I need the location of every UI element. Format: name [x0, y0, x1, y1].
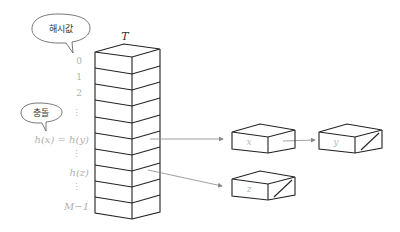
node-x	[232, 124, 295, 153]
hash-value-bubble: 해시값	[32, 14, 90, 53]
hash-table-stack	[95, 44, 160, 219]
hash-table-diagram: 해시값 충돌 T 0 1 2 ⋮ h(x) = h(y) ⋮ h(z) ⋮ M−…	[0, 0, 400, 232]
node-y	[319, 124, 382, 153]
node-y-label: y	[332, 137, 339, 147]
node-z	[232, 171, 295, 200]
index-0: 0	[76, 56, 82, 66]
index-m-minus-1: M−1	[63, 201, 89, 212]
index-hx-hy: h(x) = h(y)	[34, 134, 89, 145]
stack-top-face	[95, 44, 160, 57]
collision-bubble: 충돌	[21, 103, 62, 131]
index-labels: 0 1 2 ⋮ h(x) = h(y) ⋮ h(z) ⋮ M−1	[34, 56, 89, 212]
table-title: T	[121, 30, 130, 43]
index-1: 1	[76, 72, 82, 82]
hash-value-label: 해시값	[49, 23, 73, 34]
null-terminator-icon	[274, 180, 292, 197]
null-terminator-icon	[361, 133, 379, 150]
index-2: 2	[76, 88, 82, 98]
index-dots-2: ⋮	[72, 149, 81, 159]
index-dots-3: ⋮	[72, 182, 81, 192]
node-x-label: x	[246, 137, 251, 147]
node-z-label: z	[246, 184, 252, 194]
arrow-x-to-y	[283, 140, 315, 141]
collision-label: 충돌	[33, 108, 49, 118]
index-hz: h(z)	[69, 167, 89, 178]
arrow-to-z	[148, 170, 222, 186]
index-dots-1: ⋮	[72, 108, 81, 118]
